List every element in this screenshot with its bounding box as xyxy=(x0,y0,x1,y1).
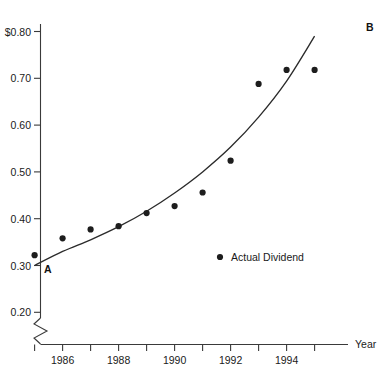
y-tick-label-0.30: 0.30 xyxy=(11,260,32,272)
data-point xyxy=(312,67,318,73)
data-point xyxy=(88,226,94,232)
dividend-chart: $0.80 0.70 0.60 0.50 0.40 0.30 0.20 1986… xyxy=(0,0,388,372)
legend-marker-icon xyxy=(217,254,223,260)
trend-curve xyxy=(35,36,315,265)
data-point xyxy=(172,203,178,209)
x-tick-label-1986: 1986 xyxy=(51,354,75,366)
data-point xyxy=(256,81,262,87)
y-axis-labels: $0.80 0.70 0.60 0.50 0.40 0.30 0.20 xyxy=(5,26,31,319)
y-axis-ticks xyxy=(34,32,41,313)
data-point xyxy=(60,235,66,241)
data-point xyxy=(284,67,290,73)
data-point xyxy=(228,158,234,164)
chart-canvas: $0.80 0.70 0.60 0.50 0.40 0.30 0.20 1986… xyxy=(0,0,388,372)
x-tick-label-1990: 1990 xyxy=(163,354,187,366)
y-tick-label-0.50: 0.50 xyxy=(11,166,32,178)
x-axis-title: Year xyxy=(355,338,377,350)
data-point xyxy=(116,223,122,229)
legend-label: Actual Dividend xyxy=(231,251,304,263)
curve-start-label-a: A xyxy=(44,263,52,275)
axis-break-icon xyxy=(34,318,47,344)
y-tick-label-0.40: 0.40 xyxy=(11,213,32,225)
curve-end-label-b: B xyxy=(366,21,374,33)
data-point-group xyxy=(31,67,317,259)
y-tick-label-0.70: 0.70 xyxy=(11,72,32,84)
x-tick-label-1992: 1992 xyxy=(219,354,243,366)
y-tick-label-0.60: 0.60 xyxy=(11,119,32,131)
data-point xyxy=(144,210,150,216)
data-point xyxy=(31,252,37,258)
y-tick-label-0.80: $0.80 xyxy=(5,26,31,38)
x-tick-label-1994: 1994 xyxy=(275,354,299,366)
legend: Actual Dividend xyxy=(217,251,304,263)
y-tick-label-0.20: 0.20 xyxy=(11,306,32,318)
x-axis-labels: 1986 1988 1990 1992 1994 xyxy=(51,354,299,366)
data-point xyxy=(200,189,206,195)
x-tick-label-1988: 1988 xyxy=(107,354,131,366)
x-axis-ticks xyxy=(35,345,315,352)
